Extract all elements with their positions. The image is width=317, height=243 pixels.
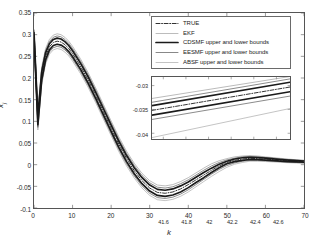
y-tick-label: 0.05 bbox=[19, 140, 31, 147]
legend-item-label: TRUE bbox=[183, 19, 199, 28]
inset-axes: -0.03-0.035-0.04 41.641.84242.242.442.6 bbox=[151, 76, 291, 140]
legend-line-swatch bbox=[155, 29, 179, 38]
inset-x-tick-label: 42.2 bbox=[227, 219, 238, 225]
x-tick-label: 20 bbox=[107, 212, 114, 219]
legend-item-label: EESMF upper and lower bounds bbox=[183, 48, 268, 57]
y-tick-label: 0.2 bbox=[22, 74, 31, 81]
y-tick-label: 0.35 bbox=[19, 9, 31, 16]
inset-y-tick-label: -0.04 bbox=[136, 132, 148, 138]
inset-series-line bbox=[152, 82, 290, 105]
legend-item[interactable]: EESMF upper and lower bounds bbox=[155, 48, 287, 58]
legend-line-swatch bbox=[155, 19, 179, 28]
y-tick-label: -0.05 bbox=[17, 184, 31, 191]
inset-y-tick-label: -0.03 bbox=[136, 83, 148, 89]
x-axis-label: k bbox=[167, 228, 171, 237]
y-axis-label-text: x bbox=[0, 104, 5, 108]
y-tick-label: 0.1 bbox=[22, 118, 31, 125]
inset-series-line bbox=[152, 96, 290, 119]
legend-item[interactable]: TRUE bbox=[155, 19, 287, 29]
y-axis-label: xj bbox=[0, 103, 7, 108]
x-tick-label: 10 bbox=[68, 212, 75, 219]
y-tick-label: -0.1 bbox=[20, 206, 31, 213]
matlab-figure: 0.350.30.250.20.150.10.050-0.05-0.1 0102… bbox=[0, 0, 317, 243]
inset-y-tick-label: -0.035 bbox=[133, 107, 148, 113]
legend-item-label: EKF bbox=[183, 29, 195, 38]
inset-x-tick-label: 42.6 bbox=[273, 219, 284, 225]
legend-item[interactable]: ABSF upper and lower bounds bbox=[155, 57, 287, 67]
legend: TRUEEKFCDSMF upper and lower boundsEESMF… bbox=[151, 16, 291, 69]
x-tick-label: 30 bbox=[146, 212, 153, 219]
inset-plot-svg bbox=[152, 77, 290, 139]
y-tick-label: 0.3 bbox=[22, 30, 31, 37]
inset-x-tick-label: 41.6 bbox=[158, 219, 169, 225]
legend-line-swatch bbox=[155, 38, 179, 47]
legend-item-label: CDSMF upper and lower bounds bbox=[183, 38, 269, 47]
inset-x-tick-label: 42.4 bbox=[250, 219, 261, 225]
legend-item-label: ABSF upper and lower bounds bbox=[183, 58, 263, 67]
y-tick-label: 0.15 bbox=[19, 96, 31, 103]
inset-x-tick-label: 42 bbox=[206, 219, 212, 225]
x-tick-label: 60 bbox=[263, 212, 270, 219]
y-tick-label: 0.25 bbox=[19, 52, 31, 59]
x-tick-label: 50 bbox=[224, 212, 231, 219]
y-tick-label: 0 bbox=[27, 162, 31, 169]
x-tick-label: 70 bbox=[301, 212, 308, 219]
legend-line-swatch bbox=[155, 58, 179, 67]
x-tick-label: 0 bbox=[31, 212, 35, 219]
y-axis-label-sub: j bbox=[1, 103, 7, 104]
inset-series-line bbox=[152, 108, 290, 137]
legend-item[interactable]: EKF bbox=[155, 29, 287, 39]
legend-line-swatch bbox=[155, 48, 179, 57]
inset-x-tick-label: 41.8 bbox=[181, 219, 192, 225]
legend-item[interactable]: CDSMF upper and lower bounds bbox=[155, 38, 287, 48]
x-tick-label: 40 bbox=[185, 212, 192, 219]
